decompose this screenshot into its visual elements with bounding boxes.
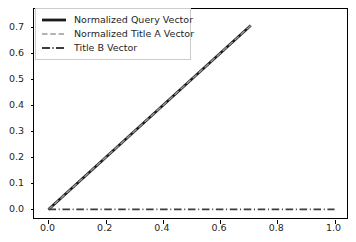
legend-label: Normalized Title A Vector: [74, 28, 194, 40]
legend-label: Normalized Query Vector: [74, 14, 193, 26]
y-tick-mark: [31, 53, 35, 54]
x-tick-mark: [335, 220, 336, 224]
y-tick-label: 0.3: [9, 125, 24, 136]
legend-item-title-b: Title B Vector: [41, 41, 184, 55]
figure-canvas: 0.7 0.6 0.5 0.4 0.3 0.2 0.1 0.0 0.0 0.2 …: [0, 0, 356, 242]
x-tick-label: 1.0: [326, 222, 341, 233]
y-tick-label: 0.1: [9, 177, 24, 188]
y-tick-mark: [31, 183, 35, 184]
chart-legend: Normalized Query Vector Normalized Title…: [35, 8, 191, 60]
x-tick-label: 0.0: [40, 222, 55, 233]
x-tick-label: 0.2: [97, 222, 112, 233]
x-tick-label: 0.8: [269, 222, 284, 233]
y-tick-label: 0.7: [9, 21, 24, 32]
y-tick-label: 0.6: [9, 47, 24, 58]
legend-swatch-solid-icon: [41, 14, 67, 26]
y-tick-label: 0.2: [9, 151, 24, 162]
x-tick-label: 0.4: [154, 222, 169, 233]
y-tick-label: 0.0: [9, 203, 24, 214]
x-tick-label: 0.6: [212, 222, 227, 233]
legend-item-query: Normalized Query Vector: [41, 13, 184, 27]
y-tick-mark: [31, 157, 35, 158]
x-tick-mark: [106, 220, 107, 224]
y-tick-label: 0.5: [9, 73, 24, 84]
x-axis-tick-labels: 0.0 0.2 0.4 0.6 0.8 1.0: [33, 222, 348, 238]
legend-swatch-dashdot-icon: [41, 42, 67, 54]
legend-label: Title B Vector: [74, 42, 137, 54]
y-tick-label: 0.4: [9, 99, 24, 110]
y-tick-mark: [31, 131, 35, 132]
x-tick-mark: [220, 220, 221, 224]
legend-item-title-a: Normalized Title A Vector: [41, 27, 184, 41]
y-tick-mark: [31, 79, 35, 80]
legend-swatch-dashed-icon: [41, 28, 67, 40]
x-tick-mark: [163, 220, 164, 224]
x-tick-mark: [48, 220, 49, 224]
y-tick-mark: [31, 27, 35, 28]
x-tick-mark: [277, 220, 278, 224]
y-axis-tick-labels: 0.7 0.6 0.5 0.4 0.3 0.2 0.1 0.0: [0, 8, 29, 219]
y-tick-mark: [31, 105, 35, 106]
y-tick-mark: [31, 209, 35, 210]
